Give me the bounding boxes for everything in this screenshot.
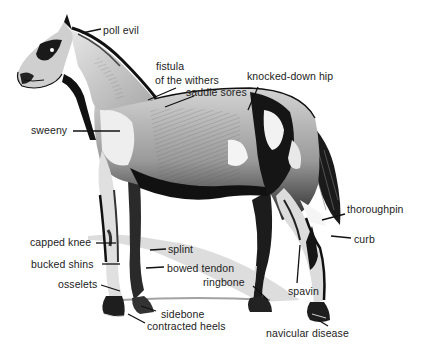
label-saddle-sores: saddle sores [186, 86, 247, 98]
label-contracted-heels: contracted heels [147, 320, 226, 332]
leader-spavin [297, 245, 300, 283]
label-sidebone: sidebone [161, 308, 204, 320]
label-sweeny: sweeny [31, 124, 67, 136]
leader-poll-evil [82, 29, 101, 33]
horse-illustration [0, 0, 427, 356]
label-capped-knee: capped knee [30, 236, 91, 248]
leader-curb [331, 236, 351, 238]
label-navicular-disease: navicular disease [266, 327, 349, 339]
label-splint: splint [168, 243, 193, 255]
leader-bowed-tendon [146, 267, 164, 268]
label-fistula-line1: fistula [156, 60, 184, 72]
label-curb: curb [354, 233, 375, 245]
leader-contracted-heels [128, 314, 145, 323]
label-osselets: osselets [58, 278, 97, 290]
label-ringbone: ringbone [203, 276, 245, 288]
label-knocked-down-hip: knocked-down hip [247, 70, 333, 82]
label-bucked-shins: bucked shins [31, 258, 94, 270]
horse-ailments-diagram: poll evil fistula of the withers saddle … [0, 0, 427, 356]
label-thoroughpin: thoroughpin [347, 203, 404, 215]
label-fistula-line2: of the withers [155, 74, 219, 86]
label-bowed-tendon: bowed tendon [167, 262, 234, 274]
label-poll-evil: poll evil [103, 24, 139, 36]
label-spavin: spavin [288, 285, 319, 297]
